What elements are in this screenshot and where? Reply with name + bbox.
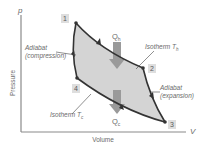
svg-text:2: 2: [150, 65, 154, 72]
badge-point-4: 4: [72, 84, 80, 93]
svg-text:3: 3: [170, 121, 174, 128]
point-3-marker: [163, 120, 167, 124]
badge-point-1: 1: [61, 14, 69, 23]
annotation-isotherm-cold: Isotherm Tc: [50, 111, 84, 120]
annotation-adiabat-expansion: Adiabat (expansion): [159, 84, 194, 100]
heat-in-label: Qh: [112, 32, 121, 42]
y-axis-label: Pressure: [9, 70, 16, 96]
annotation-adiabat-compression: Adiabat (compression): [24, 44, 66, 60]
annotation-isotherm-hot: Isotherm Th: [145, 43, 179, 52]
badge-point-3: 3: [168, 120, 176, 129]
svg-text:1: 1: [63, 15, 67, 22]
point-2-marker: [141, 66, 145, 70]
point-4-marker: [75, 76, 79, 80]
point-1-marker: [74, 21, 78, 25]
pv-diagram: p V Pressure Volume 1 2 3 4 Qh: [0, 0, 214, 151]
x-axis-label: Volume: [92, 136, 114, 143]
badge-point-2: 2: [148, 64, 156, 73]
y-axis-symbol: p: [17, 6, 23, 15]
svg-text:4: 4: [74, 85, 78, 92]
x-axis-symbol: V: [190, 127, 196, 136]
heat-out-label: Qc: [112, 117, 121, 127]
